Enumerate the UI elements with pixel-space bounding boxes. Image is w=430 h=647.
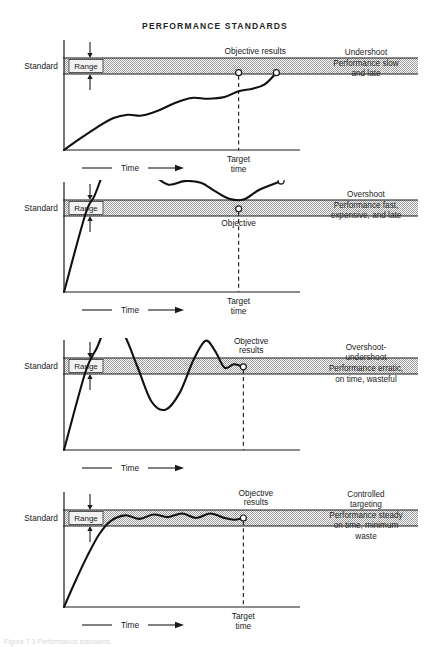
side-note-line: targeting [306,500,426,511]
performance-standards-figure: PERFORMANCE STANDARDS StandardRangeObjec… [0,0,430,647]
time-axis-arrowhead [175,165,184,171]
side-note-line: and late [306,69,426,80]
side-note-line: undershoot [306,353,426,364]
side-note-line: Performance steady [306,511,426,522]
time-axis-label: Time [121,305,140,315]
objective-label: Objective [221,218,256,228]
side-note-line: Performance erratic, [306,364,426,375]
side-note-overshoot-undershoot: Overshoot-undershootPerformance erratic,… [306,343,426,385]
standard-axis-label: Standard [24,361,58,371]
objective-results-label-line2: results [244,497,268,507]
standard-axis-label: Standard [24,61,58,71]
objective-results-label: Objective results [225,46,286,56]
side-note-undershoot: UndershootPerformance slowand late [306,48,426,80]
time-axis-arrowhead [175,622,184,628]
side-note-line: Overshoot- [306,343,426,354]
side-note-controlled-targeting: ControlledtargetingPerformance steadyon … [306,490,426,543]
marker-results-endpoint [273,70,279,76]
figure-bottom-caption: Figure 7.3 Performance standards. [4,638,234,646]
performance-curve [64,514,243,607]
range-extent-arrowhead-top [87,53,92,58]
side-note-line: Overshoot [306,190,426,201]
side-note-line: Performance slow [306,59,426,70]
side-note-line: expensive, and late [306,211,426,222]
time-axis-label: Time [121,620,140,630]
side-note-line: Undershoot [306,48,426,59]
panel-undershoot: StandardRangeObjective resultsTargettime… [0,38,430,178]
marker-objective-at-target-time [236,70,242,76]
objective-results-label-line2: results [239,345,263,355]
marker-objective-results-endpoint [240,364,246,370]
standard-axis-label: Standard [24,513,58,523]
time-axis-label: Time [121,163,140,173]
target-time-label-line1: Target [227,154,251,164]
time-axis-label: Time [121,463,140,473]
panel-controlled-targeting: StandardRangeObjectiveresultsTargettimeT… [0,490,430,635]
standard-axis-label: Standard [24,203,58,213]
panel-overshoot-undershoot: StandardRangeObjectiveresultsTimeOversho… [0,338,430,478]
target-time-label-line1: Target [232,611,256,621]
range-label: Range [74,514,98,523]
performance-curve [64,73,276,150]
marker-objective-results-endpoint [240,515,246,521]
side-note-line: on time, wasteful [306,375,426,386]
figure-title: PERFORMANCE STANDARDS [0,21,430,31]
side-note-line: Controlled [306,490,426,501]
marker-objective-in-band [236,206,242,212]
target-time-label-line2: time [231,164,247,174]
time-axis-arrowhead [175,307,184,313]
side-note-line: waste [306,532,426,543]
side-note-line: Performance fast, [306,201,426,212]
side-note-overshoot: OvershootPerformance fast,expensive, and… [306,190,426,222]
range-label: Range [74,62,98,71]
target-time-label-line2: time [231,306,247,316]
range-extent-arrowhead-bottom [87,216,92,221]
panel-overshoot: StandardRangeResultsObjectiveTargettimeT… [0,180,430,320]
side-note-line: on time, minimum [306,521,426,532]
target-time-label-line1: Target [227,296,251,306]
performance-curve [64,180,281,292]
range-extent-arrowhead-bottom [87,374,92,379]
time-axis-arrowhead [175,465,184,471]
range-extent-arrowhead-top [87,505,92,510]
target-time-label-line2: time [236,621,252,631]
range-extent-arrowhead-bottom [87,526,92,531]
marker-results-endpoint [278,180,284,184]
range-extent-arrowhead-bottom [87,74,92,79]
